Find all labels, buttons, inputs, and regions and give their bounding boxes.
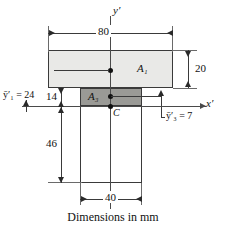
dim-arrow-flange-top — [185, 51, 191, 57]
dim-46: 46 — [44, 137, 59, 149]
x-axis-label: x′ — [206, 97, 213, 109]
ybar3-arrow — [158, 90, 164, 96]
dim-arrow-46-bottom — [58, 177, 64, 183]
dim-flange-depth: 20 — [193, 62, 208, 74]
ybar1-arrow — [23, 100, 29, 106]
ybar3-leader-down — [161, 107, 162, 117]
dim-arrow-right-bottom — [136, 196, 142, 202]
dim-arrow-right-top — [167, 30, 173, 36]
dim-top-width: 80 — [96, 25, 111, 37]
ext-line-flange-bottom — [173, 88, 197, 89]
dim-bottom-width: 40 — [103, 191, 118, 203]
figure-caption: Dimensions in mm — [0, 210, 226, 225]
leader-line-ybar3 — [111, 96, 161, 97]
dim-arrow-flange-bottom — [185, 81, 191, 87]
dim-line-46 — [61, 107, 62, 183]
cross-section-diagram: y′ x′ 80 20 14 46 40 A₁ A₃ C ȳ′₁ = 24 — [0, 0, 226, 231]
dim-arrow-left-bottom — [81, 196, 87, 202]
dim-14: 14 — [44, 90, 59, 102]
y-axis — [110, 16, 111, 209]
dim-arrow-left-top — [49, 30, 55, 36]
ext-line-web-bottom — [48, 182, 82, 183]
centroid-label-c: C — [113, 107, 120, 118]
label-a1: A₁ — [137, 62, 148, 74]
dim-arrow-46-top — [58, 107, 64, 113]
y-axis-label: y′ — [113, 4, 120, 16]
label-a3: A₃ — [88, 90, 99, 102]
label-ybar3: ȳ′₃ = 7 — [165, 110, 193, 121]
leader-line-ybar1 — [54, 70, 109, 71]
label-ybar1: ȳ′₁ = 24 — [2, 89, 35, 100]
